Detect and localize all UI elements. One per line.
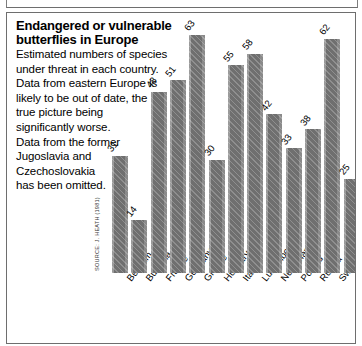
bar-rect [324, 39, 340, 273]
bar-rect [170, 80, 186, 273]
bar-united-kingdom[interactable]: 25 [344, 179, 356, 274]
bar-value-label: 63 [183, 19, 197, 33]
bar-rect [131, 220, 147, 273]
bar-france[interactable]: 48 [151, 92, 167, 273]
bar-value-label: 31 [106, 140, 120, 154]
bar-rect [189, 35, 205, 273]
bar-value-label: 38 [299, 113, 313, 127]
bar-rect [344, 179, 356, 274]
bar-rect [112, 156, 128, 273]
bar-rect [209, 160, 225, 273]
bar-rect [305, 129, 321, 273]
bar-rect [228, 65, 244, 273]
bar-value-label: 62 [318, 22, 332, 36]
source-note: SOURCE: J. HEATH (1981) [94, 197, 100, 271]
bar-belgium[interactable]: 31 [112, 156, 128, 273]
bar-italy[interactable]: 55 [228, 65, 244, 273]
bar-bulgaria[interactable]: 14 [131, 220, 147, 273]
bar-luxembourg[interactable]: 58 [247, 54, 263, 273]
bar-value-label: 55 [221, 49, 235, 63]
bar-russia[interactable]: 38 [305, 129, 321, 273]
bar-hungary[interactable]: 30 [209, 160, 225, 273]
bar-rect [247, 54, 263, 273]
bar-chart-plot-area: 31Belgium14Bulgaria48France51Germany63Gr… [7, 13, 356, 344]
bar-rect [286, 148, 302, 273]
bar-value-label: 58 [241, 38, 255, 52]
upper-panel-edge [6, 0, 358, 8]
bar-switzerland[interactable]: 62 [324, 39, 340, 273]
bar-germany[interactable]: 51 [170, 80, 186, 273]
bar-poland[interactable]: 33 [286, 148, 302, 273]
bar-greece[interactable]: 63 [189, 35, 205, 273]
figure-frame: Endangered or vulnerable butterflies in … [6, 12, 356, 344]
bar-value-label: 48 [144, 75, 158, 89]
bar-rect [151, 92, 167, 273]
bar-value-label: 51 [163, 64, 177, 78]
